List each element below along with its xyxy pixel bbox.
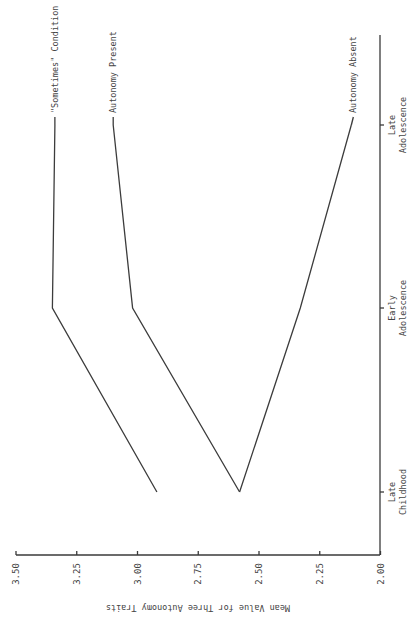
value-tick-label: 3.50: [11, 563, 21, 585]
series-labels: "Sometimes" ConditionAutonomy PresentAut…: [50, 6, 358, 125]
category-label: Early: [387, 295, 397, 321]
category-label: Adolescence: [398, 97, 408, 153]
series-leader: [351, 117, 353, 125]
category-label: Adolescence: [398, 280, 408, 336]
series-label: Autonomy Present: [108, 31, 118, 113]
series-label: Autonomy Absent: [348, 36, 358, 113]
value-tick-label: 3.25: [72, 563, 82, 585]
category-label: Late: [387, 482, 397, 502]
series-line: [52, 125, 156, 492]
line-chart: 3.503.253.002.752.502.252.00 Mean Value …: [0, 0, 418, 632]
category-axis-labels: LateChildhoodEarlyAdolescenceLateAdolesc…: [387, 97, 408, 515]
category-label: Late: [387, 115, 397, 135]
value-axis-tick-labels: 3.503.253.002.752.502.252.00: [11, 563, 386, 585]
category-label: Childhood: [398, 469, 408, 515]
value-tick-label: 2.25: [315, 563, 325, 585]
category-axis: LateChildhoodEarlyAdolescenceLateAdolesc…: [380, 35, 408, 555]
series-label: "Sometimes" Condition: [50, 6, 60, 113]
value-tick-label: 3.00: [133, 563, 143, 585]
series-line: [240, 125, 352, 492]
series-line: [113, 125, 239, 492]
value-tick-label: 2.00: [376, 563, 386, 585]
value-tick-label: 2.75: [193, 563, 203, 585]
value-tick-label: 2.50: [254, 563, 264, 585]
value-axis: 3.503.253.002.752.502.252.00 Mean Value …: [11, 551, 386, 613]
value-axis-title: Mean Value for Three Autonomy Traits: [106, 603, 290, 613]
series-lines: [52, 125, 351, 492]
